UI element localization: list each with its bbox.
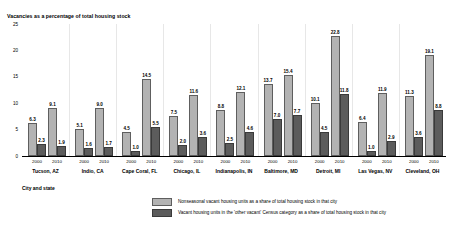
legend-item: Nonseasonal vacant housing units as a sh…: [152, 197, 448, 208]
bar-value-label: 9.1: [42, 102, 64, 107]
bar-other-vacant: [320, 132, 329, 156]
x-axis-year-label: 2010: [45, 159, 69, 164]
bar-nonseasonal-vacant: [189, 95, 198, 156]
bar-other-vacant: [245, 132, 254, 156]
y-axis-tick-10: 10: [0, 101, 18, 106]
bar-nonseasonal-vacant: [216, 110, 225, 156]
bar-value-label: 15.4: [277, 69, 299, 74]
bar-nonseasonal-vacant: [284, 75, 293, 156]
x-axis-year-label: 2010: [139, 159, 163, 164]
bar-value-label: 7.7: [286, 109, 308, 114]
bar-value-label: 4.6: [239, 126, 261, 131]
bar-other-vacant: [434, 110, 443, 156]
bar-other-vacant: [293, 115, 302, 156]
bar-other-vacant: [367, 151, 376, 156]
legend-swatch-dark: [152, 209, 172, 217]
bar-value-label: 8.8: [427, 104, 449, 109]
bar-value-label: 1.9: [51, 140, 73, 145]
bar-value-label: 5.1: [69, 123, 91, 128]
bar-other-vacant: [151, 127, 160, 156]
bar-nonseasonal-vacant: [95, 108, 104, 156]
x-axis-year-label: 2010: [92, 159, 116, 164]
bar-nonseasonal-vacant: [331, 36, 340, 156]
bar-other-vacant: [57, 146, 66, 156]
y-axis-tick-25: 25: [0, 22, 18, 27]
y-axis-tick-0: 0: [0, 154, 18, 159]
bar-value-label: 8.8: [210, 104, 232, 109]
x-axis-title: City and state: [22, 185, 55, 191]
bar-value-label: 4.5: [116, 126, 138, 131]
bar-value-label: 6.3: [22, 117, 44, 122]
bar-nonseasonal-vacant: [236, 92, 245, 156]
legend-label: Nonseasonal vacant housing units as a sh…: [178, 199, 337, 205]
bar-other-vacant: [84, 148, 93, 156]
bar-other-vacant: [178, 145, 187, 156]
y-axis-tick-15: 15: [0, 74, 18, 79]
bar-other-vacant: [387, 141, 396, 156]
bar-value-label: 10.1: [304, 97, 326, 102]
plot-area: 6.32.39.11.95.11.69.01.74.51.014.55.57.5…: [22, 24, 446, 156]
y-axis-tick-20: 20: [0, 48, 18, 53]
bar-nonseasonal-vacant: [358, 122, 367, 156]
x-axis-year-label: 2010: [233, 159, 257, 164]
legend-label: Vacant housing units in the 'other vacan…: [178, 210, 386, 216]
bar-value-label: 14.5: [136, 73, 158, 78]
bar-nonseasonal-vacant: [378, 93, 387, 156]
bar-other-vacant: [273, 119, 282, 156]
bar-other-vacant: [131, 151, 140, 156]
bar-nonseasonal-vacant: [264, 84, 273, 156]
bar-value-label: 12.1: [230, 86, 252, 91]
bar-value-label: 5.5: [145, 121, 167, 126]
bar-nonseasonal-vacant: [405, 96, 414, 156]
bar-value-label: 9.0: [89, 102, 111, 107]
chart-legend: Nonseasonal vacant housing units as a sh…: [152, 197, 448, 219]
bar-other-vacant: [414, 137, 423, 156]
legend-swatch-light: [152, 198, 172, 206]
bar-nonseasonal-vacant: [142, 79, 151, 156]
bar-value-label: 19.1: [418, 49, 440, 54]
bar-other-vacant: [37, 144, 46, 156]
bar-nonseasonal-vacant: [169, 116, 178, 156]
x-axis-year-label: 2010: [186, 159, 210, 164]
bar-value-label: 7.5: [163, 110, 185, 115]
bar-other-vacant: [340, 94, 349, 156]
x-axis-line: [22, 156, 446, 157]
x-axis-year-label: 2010: [422, 159, 446, 164]
y-axis-tick-5: 5: [0, 127, 18, 132]
bar-value-label: 22.8: [324, 30, 346, 35]
bar-value-label: 2.9: [380, 135, 402, 140]
x-axis-year-label: 2010: [375, 159, 399, 164]
bar-value-label: 11.6: [183, 89, 205, 94]
legend-item: Vacant housing units in the 'other vacan…: [152, 208, 448, 219]
bar-value-label: 11.3: [398, 90, 420, 95]
chart-title: Vacancies as a percentage of total housi…: [7, 13, 130, 19]
bar-value-label: 13.7: [257, 78, 279, 83]
bar-value-label: 11.8: [333, 88, 355, 93]
vacancy-bar-chart: Vacancies as a percentage of total housi…: [0, 0, 453, 229]
bar-other-vacant: [198, 137, 207, 156]
x-axis-year-label: 2010: [328, 159, 352, 164]
bar-value-label: 1.7: [98, 141, 120, 146]
bar-other-vacant: [225, 143, 234, 156]
bar-nonseasonal-vacant: [48, 108, 57, 156]
bar-value-label: 6.4: [351, 116, 373, 121]
bar-other-vacant: [104, 147, 113, 156]
x-axis-city-label: Cleveland, OH: [387, 168, 453, 174]
bar-value-label: 11.9: [371, 87, 393, 92]
bar-value-label: 3.6: [192, 131, 214, 136]
x-axis-year-label: 2010: [281, 159, 305, 164]
